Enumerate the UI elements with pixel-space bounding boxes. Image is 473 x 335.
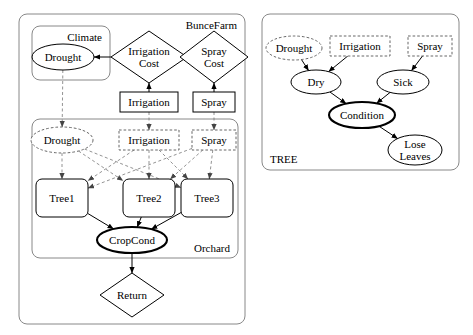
node-spray-box[interactable]: Spray: [193, 92, 235, 112]
edge-tree1-to-cropcond: [88, 214, 114, 229]
node-t-irrigation[interactable]: Irrigation: [330, 36, 390, 56]
edge-climate-drought-to-orchard-drought: [62, 70, 63, 127]
node-tree2[interactable]: Tree2: [123, 179, 175, 217]
nodes-layer: DroughtIrrigationCostSprayCostIrrigation…: [31, 31, 452, 317]
node-label-spray-cost: Cost: [204, 57, 224, 69]
node-label-return: Return: [117, 289, 147, 301]
node-label-t-condition: Condition: [340, 109, 385, 121]
edge-orchard-irrigation-to-tree3: [159, 150, 188, 179]
node-label-spray-box: Spray: [201, 96, 227, 108]
edge-t-condition-to-t-loseleaves: [379, 126, 398, 138]
node-orchard-irrigation[interactable]: Irrigation: [119, 130, 179, 150]
node-label-t-drought: Drought: [276, 42, 313, 54]
node-label-irrigation-cost: Cost: [139, 57, 159, 69]
edge-t-spray-to-t-sick: [412, 56, 423, 71]
node-label-t-sick: Sick: [393, 76, 413, 88]
diagram-canvas: BunceFarmTREEClimateOrchard DroughtIrrig…: [0, 0, 473, 335]
node-irrigation-cost[interactable]: IrrigationCost: [111, 31, 187, 83]
node-climate-drought[interactable]: Drought: [32, 44, 94, 70]
diagram-svg: BunceFarmTREEClimateOrchard DroughtIrrig…: [0, 0, 473, 335]
edge-t-sick-to-t-condition: [377, 92, 391, 103]
node-return[interactable]: Return: [100, 273, 164, 317]
node-label-t-loseleaves: Leaves: [399, 150, 430, 162]
edge-t-dry-to-t-condition: [330, 92, 346, 104]
edge-t-drought-to-t-dry: [301, 60, 308, 71]
node-label-climate-drought: Drought: [45, 51, 82, 63]
node-t-condition[interactable]: Condition: [329, 102, 395, 128]
node-label-t-loseleaves: Lose: [404, 138, 426, 150]
panel-label-climate: Climate: [67, 31, 102, 43]
node-t-dry[interactable]: Dry: [291, 70, 341, 94]
panel-label-buncefarm: BunceFarm: [186, 19, 238, 31]
node-tree1[interactable]: Tree1: [36, 179, 88, 217]
node-label-orchard-spray: Spray: [201, 134, 227, 146]
node-label-t-dry: Dry: [307, 76, 325, 88]
node-label-tree2: Tree2: [136, 192, 161, 204]
node-label-tree3: Tree3: [194, 192, 220, 204]
node-cropcond[interactable]: CropCond: [97, 227, 167, 253]
node-t-loseleaves[interactable]: LoseLeaves: [388, 135, 442, 165]
panel-label-tree-class: TREE: [270, 153, 298, 165]
node-label-spray-cost: Spray: [201, 45, 227, 57]
edge-t-irrigation-to-t-dry: [329, 56, 348, 72]
node-label-irrigation-box: Irrigation: [128, 96, 170, 108]
node-t-sick[interactable]: Sick: [377, 70, 429, 94]
edge-tree2-to-cropcond: [137, 217, 141, 227]
node-label-orchard-irrigation: Irrigation: [128, 134, 170, 146]
node-irrigation-box[interactable]: Irrigation: [120, 92, 178, 112]
node-orchard-drought[interactable]: Drought: [31, 127, 93, 153]
node-orchard-spray[interactable]: Spray: [192, 130, 236, 150]
node-label-cropcond: CropCond: [109, 234, 155, 246]
node-label-orchard-drought: Drought: [44, 134, 81, 146]
node-label-t-irrigation: Irrigation: [339, 40, 381, 52]
node-tree3[interactable]: Tree3: [181, 179, 233, 217]
node-spray-cost[interactable]: SprayCost: [180, 31, 248, 83]
edge-orchard-spray-to-tree3: [209, 150, 213, 179]
node-t-spray[interactable]: Spray: [408, 36, 452, 56]
node-t-drought[interactable]: Drought: [266, 36, 322, 60]
node-label-t-spray: Spray: [417, 40, 443, 52]
node-label-tree1: Tree1: [49, 192, 74, 204]
edge-orchard-irrigation-to-tree1: [88, 150, 134, 181]
panel-label-orchard: Orchard: [194, 242, 231, 254]
node-label-irrigation-cost: Irrigation: [128, 45, 170, 57]
edge-orchard-spray-to-tree2: [170, 150, 203, 179]
